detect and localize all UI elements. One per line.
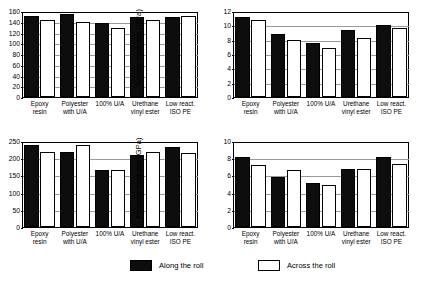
bar [392, 164, 407, 227]
legend-swatch-across-icon [258, 260, 280, 271]
plot-area: 020406080100120140160 [22, 12, 198, 98]
bar-series-container [234, 12, 409, 97]
bar [24, 145, 39, 227]
y-axis-label: Tensile modulus (GPa) [133, 2, 145, 94]
y-axis-tick-mark [232, 228, 235, 229]
bar [40, 152, 55, 227]
bar [287, 170, 302, 227]
bar [287, 40, 302, 97]
bar [181, 153, 196, 227]
y-axis-tick-label: 200 [0, 156, 20, 163]
plot-area-wrapper: 024681012 [233, 12, 409, 98]
bar [95, 170, 110, 227]
plot-area: 050100150200250 [22, 142, 198, 228]
legend-label: Along the roll [159, 261, 203, 270]
y-axis-tick-label: 4 [205, 190, 231, 197]
bar [322, 48, 337, 97]
bar [376, 25, 391, 97]
y-axis-tick-label: 6 [205, 173, 231, 180]
bar [76, 22, 91, 97]
x-axis-labels: Epoxy resinPolyester with U/A100% U/AUre… [233, 230, 409, 252]
x-axis-labels: Epoxy resinPolyester with U/A100% U/AUre… [22, 100, 198, 122]
y-axis-tick-label: 100 [0, 190, 20, 197]
y-axis-tick-label: 8 [205, 156, 231, 163]
plot-area-wrapper: 0246810 [233, 142, 409, 228]
y-axis-tick-label: 40 [0, 73, 20, 80]
bar [60, 152, 75, 227]
bar [95, 23, 110, 97]
y-axis-tick-label: 2 [205, 207, 231, 214]
y-axis-tick-label: 8 [205, 37, 231, 44]
bar [306, 43, 321, 97]
y-axis-tick-label: 6 [205, 52, 231, 59]
y-axis-tick-label: 100 [0, 41, 20, 48]
y-axis-tick-label: 160 [0, 9, 20, 16]
y-axis-tick-label: 60 [0, 62, 20, 69]
y-axis-label: Flexural modulus (GPa) [133, 132, 145, 224]
bar [40, 20, 55, 97]
x-axis-labels: Epoxy resinPolyester with U/A100% U/AUre… [22, 230, 198, 252]
bar-series-container [23, 12, 198, 97]
bar [357, 169, 372, 227]
chart-panel-tensile-strength: Tensile strength (MPa) 02040608010012014… [0, 2, 211, 130]
bar [271, 177, 286, 227]
bar-series-container [23, 142, 198, 227]
bar [60, 14, 75, 97]
y-axis-tick-label: 50 [0, 207, 20, 214]
plot-area-wrapper: 020406080100120140160 [22, 12, 198, 98]
bar [271, 34, 286, 97]
bar [251, 165, 266, 227]
y-axis-tick-label: 10 [205, 23, 231, 30]
x-axis-tick-label: Low react. ISO PE [370, 230, 413, 246]
x-axis-labels: Epoxy resinPolyester with U/A100% U/AUre… [233, 100, 409, 122]
bar [76, 145, 91, 227]
figure-legend: Along the roll Across the roll [0, 258, 422, 280]
y-axis-tick-label: 10 [205, 139, 231, 146]
y-axis-tick-label: 4 [205, 66, 231, 73]
bar [146, 20, 161, 97]
y-axis-tick-label: 0 [205, 95, 231, 102]
bar [306, 183, 321, 227]
y-axis-tick-label: 150 [0, 173, 20, 180]
y-axis-tick-label: 2 [205, 80, 231, 87]
y-axis-tick-mark [21, 98, 24, 99]
bar [235, 17, 250, 97]
bar [165, 17, 180, 97]
bar [111, 170, 126, 227]
y-axis-tick-label: 0 [205, 225, 231, 232]
y-axis-tick-label: 80 [0, 52, 20, 59]
bar [181, 16, 196, 97]
legend-label: Across the roll [287, 261, 335, 270]
y-axis-tick-label: 140 [0, 19, 20, 26]
bar [24, 16, 39, 97]
bar [322, 185, 337, 227]
legend-item-along-the-roll: Along the roll [130, 258, 203, 272]
y-axis-tick-label: 250 [0, 139, 20, 146]
plot-area: 024681012 [233, 12, 409, 98]
chart-panel-flexural-strength: Flexural strength (MPa) 050100150200250 … [0, 132, 211, 260]
y-axis-tick-mark [21, 228, 24, 229]
x-axis-tick-label: Low react. ISO PE [159, 230, 202, 246]
bar [376, 157, 391, 227]
bar-series-container [234, 142, 409, 227]
bar [341, 30, 356, 97]
bar [392, 28, 407, 97]
y-axis-tick-label: 20 [0, 84, 20, 91]
x-axis-tick-label: Low react. ISO PE [159, 100, 202, 116]
bar [251, 20, 266, 97]
x-axis-tick-label: Low react. ISO PE [370, 100, 413, 116]
y-axis-tick-label: 12 [205, 9, 231, 16]
bar [235, 157, 250, 227]
bar [165, 147, 180, 227]
plot-area-wrapper: 050100150200250 [22, 142, 198, 228]
plot-area: 0246810 [233, 142, 409, 228]
bar [111, 28, 126, 97]
bar [341, 169, 356, 227]
chart-panel-flexural-modulus: Flexural modulus (GPa) 0246810 Epoxy res… [211, 132, 422, 260]
y-axis-tick-mark [232, 98, 235, 99]
chart-panel-tensile-modulus: Tensile modulus (GPa) 024681012 Epoxy re… [211, 2, 422, 130]
bar [146, 152, 161, 227]
figure-root: Tensile strength (MPa) 02040608010012014… [0, 0, 422, 289]
y-axis-tick-label: 0 [0, 225, 20, 232]
legend-swatch-along-icon [130, 260, 152, 271]
